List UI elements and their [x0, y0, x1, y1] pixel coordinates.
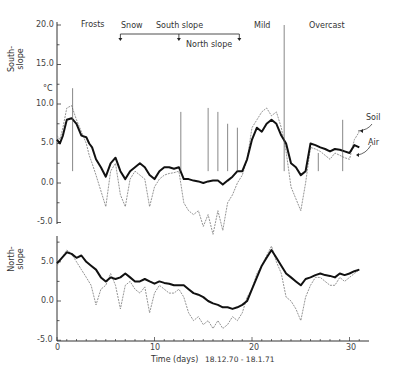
south-slope-bracket-label: South slope [156, 22, 203, 30]
overcast-label: Overcast [309, 22, 345, 30]
north-air-line [57, 246, 359, 328]
mild-label: Mild [254, 22, 270, 30]
south-slope-label-line1: South- [7, 46, 16, 72]
y-tick-upper-neg5: -5.0 [37, 218, 53, 226]
data-series [57, 25, 359, 329]
y-tick-lower-0: 0.0 [41, 297, 54, 305]
soil-series-label: Soil [366, 114, 380, 122]
frosts-label: Frosts [81, 21, 105, 29]
y-tick-upper-10: 10.0 [36, 100, 54, 108]
annotations [118, 34, 372, 157]
x-tick-20: 20 [249, 344, 259, 352]
air-series-label: Air [368, 139, 379, 147]
y-tick-lower-5: 5.0 [41, 258, 54, 266]
temperature-chart [0, 0, 393, 383]
north-slope-bracket-label: North slope [186, 41, 232, 49]
y-tick-upper-0: 0.0 [41, 179, 54, 187]
date-range-label: 18.12.70 - 18.1.71 [205, 356, 275, 364]
x-tick-0: 0 [55, 344, 60, 352]
unit-label: °C [43, 85, 53, 93]
south-slope-label-line2: slope [16, 48, 25, 69]
snow-label: Snow [121, 22, 143, 30]
x-axis-label: Time (days) [151, 356, 198, 364]
y-tick-upper-5: 5.0 [41, 139, 54, 147]
south-slope-label: South- slope [8, 36, 22, 76]
north-slope-label-line2: slope [16, 248, 25, 269]
x-tick-10: 10 [150, 344, 160, 352]
y-tick-upper-15: 15.0 [36, 60, 54, 68]
x-tick-30: 30 [346, 344, 356, 352]
north-slope-label: North- slope [8, 236, 22, 276]
y-tick-lower-neg5: -5.0 [37, 336, 53, 344]
y-tick-upper-20: 20.0 [36, 21, 54, 29]
north-slope-label-line1: North- [7, 246, 16, 271]
